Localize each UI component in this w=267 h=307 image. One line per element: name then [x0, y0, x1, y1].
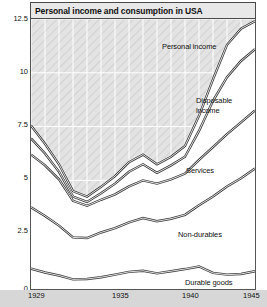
annotation-durable-goods: Durable goods [185, 278, 232, 287]
x-tick-label-1: 1935 [112, 291, 129, 300]
area-chart-svg [31, 19, 255, 288]
annotation-services: Services [186, 166, 214, 175]
annotation-disposable-income-line2: income [196, 106, 220, 115]
page-title: Personal income and consumption in USA [31, 6, 203, 16]
y-tick-label-3: 5 [2, 174, 28, 182]
x-tick-label-0: 1929 [28, 291, 45, 300]
y-tick-label-4: 2.5 [2, 227, 28, 235]
plot-area [30, 19, 256, 290]
x-axis: 1929 1935 1940 1945 [0, 290, 267, 307]
x-tick-label-3: 1945 [243, 291, 260, 300]
chart-title-bar: Personal income and consumption in USA [30, 2, 256, 19]
annotation-personal-income: Personal income [162, 42, 216, 51]
y-tick-label-1: 10 [2, 68, 28, 76]
chart-figure: Personal income and consumption in USA 1… [0, 0, 267, 307]
y-tick-label-2: 7.5 [2, 121, 28, 129]
annotation-disposable-income-line1: Disposable [196, 96, 232, 105]
y-tick-label-0: 12.5 [2, 15, 28, 23]
x-tick-label-2: 1940 [182, 291, 199, 300]
y-axis: 12.5 10 7.5 5 2.5 0 [0, 0, 28, 307]
annotation-non-durables: Non-durables [178, 230, 222, 239]
